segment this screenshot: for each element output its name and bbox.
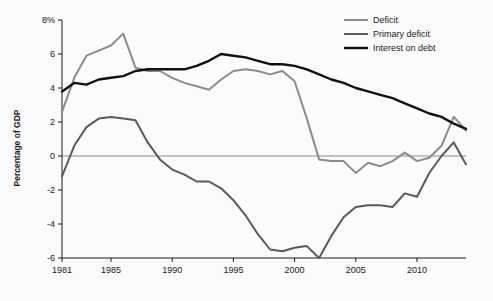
chart-legend: DeficitPrimary deficitInterest on debt — [344, 15, 436, 53]
y-axis-title: Percentage of GDP — [12, 109, 22, 186]
data-series-layer — [62, 34, 466, 258]
x-axis-tick-label: 1995 — [223, 265, 243, 275]
y-axis-tick-label: 2 — [50, 117, 55, 127]
x-axis-tick-label: 1990 — [162, 265, 182, 275]
y-axis-tick-label: -6 — [47, 253, 55, 263]
legend-label-interest-on-debt: Interest on debt — [373, 43, 436, 53]
y-axis-tick-label: 6 — [50, 49, 55, 59]
y-axis-label-text: Percentage of GDP — [12, 109, 22, 186]
chart-figure: 8%6420-2-4-61981198519901995200020052010… — [0, 0, 493, 301]
tick-label-layer: 8%6420-2-4-61981198519901995200020052010 — [42, 15, 427, 275]
y-axis-tick-label: 8% — [42, 15, 55, 25]
x-axis-tick-label: 2005 — [346, 265, 366, 275]
y-axis-tick-label: 0 — [50, 151, 55, 161]
line-chart: 8%6420-2-4-61981198519901995200020052010… — [0, 0, 493, 301]
y-axis-tick-label: 4 — [50, 83, 55, 93]
y-axis-tick-label: -2 — [47, 185, 55, 195]
series-line-primary-deficit — [62, 117, 466, 258]
x-axis-tick-label: 1981 — [52, 265, 72, 275]
x-axis-tick-label: 1985 — [101, 265, 121, 275]
x-axis-tick-label: 2010 — [407, 265, 427, 275]
legend-label-deficit: Deficit — [373, 15, 399, 25]
y-axis-tick-label: -4 — [47, 219, 55, 229]
x-axis-tick-label: 2000 — [285, 265, 305, 275]
axis-layer — [58, 20, 466, 262]
legend-label-primary-deficit: Primary deficit — [373, 29, 431, 39]
